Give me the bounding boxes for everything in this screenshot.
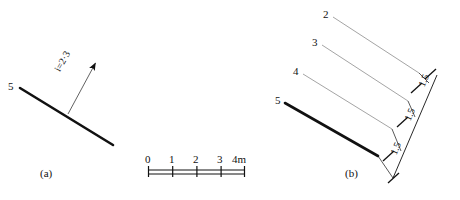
panel-a-main-line: [20, 88, 113, 145]
panel-b-dimension-line: [393, 75, 437, 178]
panel-a-line-label: 5: [8, 80, 14, 92]
panel-b-line-2: [333, 17, 419, 73]
scale-label-end: 4m: [232, 153, 246, 165]
panel-b-label-4: 4: [293, 65, 299, 77]
panel-a-gradient-arrow: [68, 63, 96, 114]
scale-label-2: 2: [193, 153, 199, 165]
panel-a-graphic: [20, 63, 113, 145]
panel-b-label-2: 2: [323, 8, 329, 20]
scale-label-1: 1: [169, 153, 175, 165]
panel-b-dimension-ticks: [383, 69, 436, 183]
scale-label-3: 3: [217, 153, 223, 165]
figure-canvas: [0, 0, 460, 200]
panel-b-graphic: [285, 17, 437, 183]
panel-a-caption: (a): [40, 167, 52, 179]
panel-b-label-5: 5: [275, 94, 281, 106]
panel-b-line-3: [322, 45, 408, 101]
panel-b-label-3: 3: [312, 36, 318, 48]
panel-b-line-5: [285, 103, 378, 156]
scale-bar-graphic: [148, 166, 245, 177]
scale-label-0: 0: [145, 153, 151, 165]
dim-tick-0: [388, 173, 399, 183]
panel-b-caption: (b): [345, 167, 358, 179]
